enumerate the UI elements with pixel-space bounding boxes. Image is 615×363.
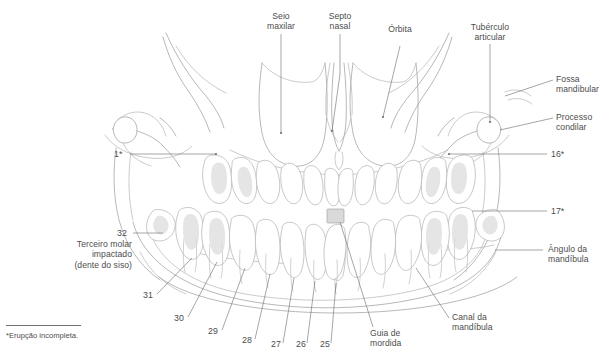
bite-guide-marker bbox=[327, 209, 344, 223]
label-terceiro-molar-impactado: Terceiro molar impactado (dente do siso) bbox=[40, 239, 132, 270]
tooth-number-30: 30 bbox=[174, 313, 184, 323]
tooth-number-16: 16* bbox=[551, 149, 564, 159]
tooth-number-27: 27 bbox=[271, 339, 281, 349]
label-processo-condilar: Processo condilar bbox=[556, 112, 615, 133]
tooth-number-28: 28 bbox=[242, 335, 252, 345]
dental-panoramic-figure: .bone { fill:none; stroke:#a6a6a6; strok… bbox=[0, 0, 615, 363]
tooth-number-29: 29 bbox=[208, 326, 218, 336]
tooth-number-17: 17* bbox=[551, 206, 564, 216]
footnote-rule bbox=[6, 325, 81, 326]
label-angulo-da-mandibula: Ângulo da mandíbula bbox=[548, 244, 615, 265]
tooth-number-25: 25 bbox=[320, 339, 330, 349]
upper-teeth-row bbox=[203, 155, 476, 206]
label-tuberculo-articular: Tubérculo articular bbox=[458, 22, 522, 43]
label-seio-maxilar: Seio maxilar bbox=[251, 11, 311, 32]
label-fossa-mandibular: Fossa mandibular bbox=[556, 74, 615, 95]
tooth-number-26: 26 bbox=[296, 339, 306, 349]
label-orbita: Órbita bbox=[377, 24, 423, 34]
tooth-number-31: 31 bbox=[143, 290, 153, 300]
footnote-text: *Erupção incompleta. bbox=[6, 331, 78, 340]
label-guia-de-mordida: Guia de mordida bbox=[370, 328, 420, 349]
tooth-number-1: 1* bbox=[114, 149, 122, 159]
tooth-number-32: 32 bbox=[117, 228, 127, 238]
label-septo-nasal: Septo nasal bbox=[315, 11, 365, 32]
anatomical-drawing: .bone { fill:none; stroke:#a6a6a6; strok… bbox=[0, 0, 615, 363]
label-canal-da-mandibula: Canal da mandíbula bbox=[452, 312, 512, 333]
